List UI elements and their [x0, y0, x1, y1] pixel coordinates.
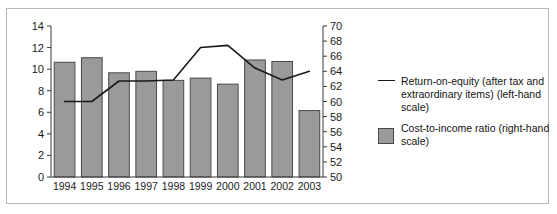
- left-tick-label: 14: [32, 20, 44, 32]
- bar-1999: [190, 78, 211, 177]
- right-tick-label: 52: [330, 156, 342, 168]
- bar-1997: [136, 71, 157, 177]
- x-tick-label-1999: 1999: [189, 180, 213, 192]
- bar-2001: [245, 60, 266, 177]
- bar-2002: [272, 61, 293, 177]
- left-tick-label: 12: [32, 42, 44, 54]
- combo-chart-svg: 0246810121450525456586062646668701994199…: [7, 9, 367, 203]
- bar-1995: [81, 58, 102, 177]
- legend-label-return-on-equity: Return-on-equity (after tax and extraord…: [397, 75, 550, 113]
- bar-1994: [54, 62, 75, 177]
- x-tick-label-1994: 1994: [53, 180, 77, 192]
- right-tick-label: 50: [330, 171, 342, 183]
- x-tick-label-1997: 1997: [135, 180, 159, 192]
- legend-item-cost-to-income: Cost-to-income ratio (right-hand scale): [375, 122, 550, 148]
- x-tick-label-2000: 2000: [216, 180, 240, 192]
- right-tick-label: 68: [330, 35, 342, 47]
- chart-figure: 0246810121450525456586062646668701994199…: [6, 8, 549, 204]
- x-tick-label-1998: 1998: [162, 180, 186, 192]
- plot-area: 0246810121450525456586062646668701994199…: [7, 9, 367, 203]
- right-tick-label: 64: [330, 65, 342, 77]
- line-marker-icon: [375, 75, 397, 81]
- bar-1996: [109, 73, 130, 177]
- x-tick-label-2002: 2002: [271, 180, 295, 192]
- left-tick-label: 4: [38, 128, 44, 140]
- left-tick-label: 6: [38, 106, 44, 118]
- left-tick-label: 10: [32, 63, 44, 75]
- chart-legend: Return-on-equity (after tax and extraord…: [375, 75, 550, 157]
- right-tick-label: 66: [330, 50, 342, 62]
- x-tick-label-2003: 2003: [298, 180, 322, 192]
- legend-item-return-on-equity: Return-on-equity (after tax and extraord…: [375, 75, 550, 113]
- right-tick-label: 56: [330, 126, 342, 138]
- bar-1998: [163, 80, 184, 177]
- right-tick-label: 58: [330, 111, 342, 123]
- x-tick-label-1996: 1996: [107, 180, 131, 192]
- legend-label-cost-to-income: Cost-to-income ratio (right-hand scale): [397, 122, 550, 148]
- left-tick-label: 0: [38, 171, 44, 183]
- right-tick-label: 62: [330, 80, 342, 92]
- right-tick-label: 60: [330, 96, 342, 108]
- left-tick-label: 8: [38, 85, 44, 97]
- x-tick-label-2001: 2001: [243, 180, 267, 192]
- right-tick-label: 70: [330, 20, 342, 32]
- left-tick-label: 2: [38, 149, 44, 161]
- bar-2003: [299, 111, 320, 177]
- right-tick-label: 54: [330, 141, 342, 153]
- square-swatch-icon: [375, 122, 397, 144]
- x-tick-label-1995: 1995: [80, 180, 104, 192]
- bar-2000: [217, 84, 238, 177]
